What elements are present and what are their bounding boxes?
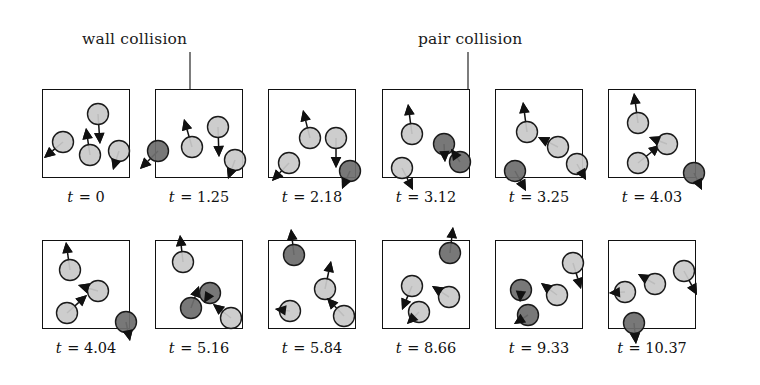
particle bbox=[511, 280, 532, 303]
time-value: = 3.12 bbox=[403, 189, 457, 205]
time-label: t = 10.37 bbox=[608, 340, 696, 356]
particle bbox=[181, 286, 202, 319]
particle-disk-colliding bbox=[624, 313, 645, 334]
particle bbox=[538, 137, 569, 158]
particle-layer bbox=[155, 240, 243, 329]
velocity-arrow-head-overlay bbox=[324, 261, 334, 273]
time-label: t = 4.03 bbox=[608, 189, 696, 205]
velocity-arrow-head-overlay bbox=[94, 133, 104, 144]
time-label: t = 2.18 bbox=[268, 189, 356, 205]
particle bbox=[638, 274, 666, 295]
snapshot-panel-11: t = 9.33 bbox=[495, 240, 583, 359]
time-symbol: t bbox=[169, 189, 176, 205]
particle bbox=[208, 117, 229, 158]
time-symbol: t bbox=[56, 340, 63, 356]
particle bbox=[432, 286, 460, 308]
particle-layer bbox=[42, 240, 130, 329]
time-symbol: t bbox=[169, 340, 176, 356]
particle-layer bbox=[495, 89, 583, 178]
snapshot-panel-6: t = 4.03 bbox=[608, 89, 696, 208]
particle bbox=[284, 229, 305, 266]
time-symbol: t bbox=[617, 340, 624, 356]
time-symbol: t bbox=[282, 340, 289, 356]
velocity-arrow-head-overlay bbox=[573, 277, 583, 289]
velocity-arrow-head-overlay bbox=[331, 157, 341, 168]
velocity-arrow-head-overlay bbox=[82, 128, 92, 140]
particle bbox=[326, 128, 347, 169]
particle bbox=[517, 102, 538, 143]
time-symbol: t bbox=[396, 340, 403, 356]
particle bbox=[200, 283, 221, 304]
velocity-arrow-head-overlay bbox=[519, 102, 529, 114]
particle bbox=[272, 153, 300, 182]
time-value: = 4.03 bbox=[629, 189, 683, 205]
time-label: t = 1.25 bbox=[155, 189, 243, 205]
particle bbox=[674, 261, 698, 296]
particle bbox=[392, 158, 414, 191]
particle bbox=[563, 253, 584, 290]
snapshot-panel-3: t = 2.18 bbox=[268, 89, 356, 208]
time-value: = 0 bbox=[74, 189, 105, 205]
particle bbox=[275, 301, 301, 322]
snapshot-panel-7: t = 4.04 bbox=[42, 240, 130, 359]
particle bbox=[60, 242, 81, 281]
particle-layer bbox=[382, 89, 470, 178]
particle-disk bbox=[628, 113, 649, 134]
particle bbox=[407, 302, 430, 325]
particle-disk bbox=[221, 308, 242, 329]
velocity-arrow-head-overlay bbox=[404, 104, 414, 116]
particle-disk bbox=[173, 252, 194, 273]
velocity-arrow-head-overlay bbox=[176, 235, 186, 247]
snapshot-panel-9: t = 5.84 bbox=[268, 240, 356, 359]
particle bbox=[450, 149, 471, 173]
particle-disk-colliding bbox=[200, 283, 221, 304]
particle-disk bbox=[402, 276, 423, 297]
particle-disk-colliding bbox=[148, 141, 169, 162]
particle-disk-colliding bbox=[181, 298, 202, 319]
annotation-label-wall-collision: wall collision bbox=[82, 30, 187, 48]
time-label: t = 3.25 bbox=[495, 189, 583, 205]
time-label: t = 4.04 bbox=[42, 340, 130, 356]
time-value: = 1.25 bbox=[176, 189, 230, 205]
particle-disk bbox=[334, 306, 355, 327]
particle-disk bbox=[300, 128, 321, 149]
velocity-arrow-head-overlay bbox=[182, 119, 192, 131]
velocity-arrow-head-overlay bbox=[630, 93, 640, 105]
time-symbol: t bbox=[509, 189, 516, 205]
particle bbox=[514, 305, 539, 326]
particle-layer bbox=[495, 240, 583, 329]
particle-layer bbox=[42, 89, 130, 178]
particle-disk bbox=[88, 281, 109, 302]
snapshot-panel-4: t = 3.12 bbox=[382, 89, 470, 208]
particle bbox=[684, 163, 705, 191]
particle-layer bbox=[608, 240, 696, 329]
time-value: = 10.37 bbox=[624, 340, 687, 356]
particle-disk bbox=[53, 132, 74, 153]
particle-disk-colliding bbox=[440, 243, 461, 264]
particle bbox=[628, 93, 649, 134]
time-label: t = 9.33 bbox=[495, 340, 583, 356]
time-value: = 2.18 bbox=[289, 189, 343, 205]
velocity-arrow-head-overlay bbox=[439, 151, 449, 162]
velocity-arrow-head-overlay bbox=[301, 110, 311, 122]
time-label: t = 0 bbox=[42, 189, 130, 205]
particle-disk bbox=[279, 153, 300, 174]
particle-disk bbox=[80, 145, 101, 166]
time-label: t = 5.16 bbox=[155, 340, 243, 356]
particle bbox=[440, 227, 461, 264]
velocity-arrow-head-overlay bbox=[62, 242, 72, 254]
time-symbol: t bbox=[396, 189, 403, 205]
simulation-figure: wall collisionpair collisiont = 0t = 1.2… bbox=[0, 0, 760, 385]
snapshot-panel-2: t = 1.25 bbox=[155, 89, 243, 208]
particle-disk bbox=[326, 128, 347, 149]
time-value: = 9.33 bbox=[516, 340, 570, 356]
particle-layer bbox=[382, 240, 470, 329]
particle bbox=[116, 312, 137, 342]
velocity-arrow-head-overlay bbox=[190, 286, 200, 298]
annotation-label-pair-collision: pair collision bbox=[418, 30, 522, 48]
particle bbox=[300, 110, 321, 149]
particle-disk bbox=[628, 153, 649, 174]
particle-disk bbox=[402, 124, 423, 145]
particle-disk bbox=[88, 104, 109, 125]
particle-layer bbox=[268, 89, 356, 178]
